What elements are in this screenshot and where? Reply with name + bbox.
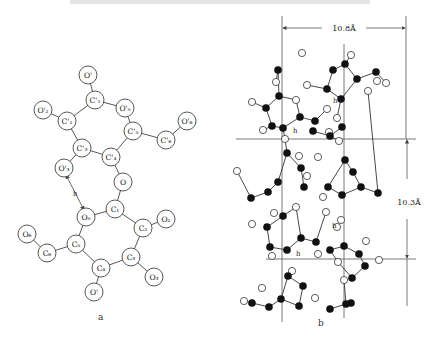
carbon-atom	[248, 299, 256, 307]
hbond-label: h	[332, 222, 337, 230]
carbon-atom	[326, 305, 334, 313]
oxygen-atom	[248, 98, 255, 105]
carbon-atom	[279, 212, 287, 220]
carbon-atom	[372, 68, 380, 76]
carbon-atom	[312, 238, 320, 246]
carbon-atom	[361, 262, 369, 270]
bond-line	[316, 212, 326, 242]
carbon-atom	[357, 183, 365, 191]
panel-b-label: b	[318, 318, 324, 328]
svg-text:C'₆: C'₆	[161, 136, 172, 145]
oxygen-atom	[303, 172, 310, 179]
carbon-atom	[329, 66, 337, 74]
svg-text:C₁: C₁	[111, 205, 120, 214]
svg-text:O₃: O₃	[149, 273, 158, 282]
oxygen-atom	[248, 220, 255, 227]
carbon-atom	[295, 302, 303, 310]
svg-text:C₃: C₃	[127, 253, 136, 262]
svg-text:O'₂: O'₂	[37, 106, 48, 115]
atom-O_link: O	[114, 173, 132, 191]
carbon-atom	[326, 132, 334, 140]
hbond-label: h	[73, 190, 78, 198]
oxygen-atom	[322, 208, 329, 215]
carbon-atom	[296, 113, 304, 121]
oxygen-atom	[323, 105, 330, 112]
bond-line	[296, 207, 301, 238]
svg-text:C'₁: C'₁	[90, 96, 101, 105]
oxygen-atom	[364, 87, 371, 94]
oxygen-atom	[333, 114, 340, 121]
carbon-atom	[341, 156, 349, 164]
svg-text:O': O'	[84, 71, 92, 80]
hbond-label: h	[293, 127, 298, 135]
carbon-atom	[279, 124, 287, 132]
carbon-atom	[265, 303, 273, 311]
atom-C1: C₁	[106, 200, 124, 218]
svg-text:O₆: O₆	[22, 230, 31, 239]
svg-text:C₂: C₂	[139, 224, 148, 233]
carbon-atom	[347, 299, 355, 307]
panel-b-crystal-lattice: 10.8Å10.3Åhhhh	[233, 16, 421, 322]
carbon-atom	[284, 272, 292, 280]
carbon-atom	[323, 85, 331, 93]
svg-text:C'₂: C'₂	[62, 117, 73, 126]
carbon-atom	[355, 250, 363, 258]
oxygen-atom	[298, 49, 305, 56]
atom-O6: O₆	[18, 225, 36, 243]
oxygen-atom	[382, 79, 389, 86]
atom-C4p: C'₄	[102, 148, 120, 166]
oxygen-atom	[311, 294, 318, 301]
atom-C6: C₆	[38, 244, 56, 262]
carbon-atom	[277, 295, 285, 303]
carbon-atom	[262, 104, 270, 112]
oxygen-atom	[347, 51, 354, 58]
height-dimension-label: 10.3Å	[397, 198, 421, 207]
oxygen-atom	[258, 284, 265, 291]
svg-text:O: O	[120, 178, 126, 187]
atom-C5p: C'₅	[124, 122, 142, 140]
panel-a-label: a	[98, 312, 103, 322]
svg-text:C₆: C₆	[43, 249, 52, 258]
carbon-atom	[324, 183, 332, 191]
svg-text:C'₄: C'₄	[106, 153, 117, 162]
oxygen-atom	[270, 209, 277, 216]
atom-O6p: O'₆	[178, 112, 196, 130]
svg-text:O'₃: O'₃	[58, 164, 69, 173]
carbon-atom	[348, 274, 356, 282]
bond-line	[278, 153, 287, 182]
width-dimension-label: 10.8Å	[332, 24, 356, 33]
carbon-atom	[300, 183, 308, 191]
bond-line	[368, 91, 378, 193]
carbon-atom	[297, 234, 305, 242]
svg-text:O': O'	[90, 288, 98, 297]
atom-O_bottom: O'	[85, 283, 103, 301]
carbon-atom	[309, 127, 317, 135]
atom-O5: O₅	[77, 208, 95, 226]
carbon-atom	[341, 60, 349, 68]
carbon-atom	[263, 223, 271, 231]
atom-C4: C₄	[92, 259, 110, 277]
carbon-atom	[311, 117, 319, 125]
carbon-atom	[283, 149, 291, 157]
svg-text:C'₅: C'₅	[128, 127, 139, 136]
atom-C1p: C'₁	[86, 91, 104, 109]
carbon-atom	[264, 188, 272, 196]
oxygen-atom	[314, 153, 321, 160]
oxygen-atom	[259, 126, 266, 133]
svg-text:C₅: C₅	[72, 240, 81, 249]
oxygen-atom	[373, 77, 380, 84]
oxygen-atom	[335, 137, 342, 144]
atom-O2: O₂	[157, 210, 175, 228]
svg-text:O₂: O₂	[161, 215, 170, 224]
carbon-atom	[338, 191, 346, 199]
carbon-atom	[338, 123, 346, 131]
oxygen-atom	[240, 297, 247, 304]
carbon-atom	[297, 164, 305, 172]
oxygen-atom	[319, 193, 326, 200]
hbond-label: h	[333, 97, 338, 105]
atom-C3: C₃	[122, 248, 140, 266]
hbond-label: h	[296, 250, 301, 258]
carbon-atom	[266, 243, 274, 251]
atom-C6p: C'₆	[157, 131, 175, 149]
carbon-atom	[326, 246, 334, 254]
